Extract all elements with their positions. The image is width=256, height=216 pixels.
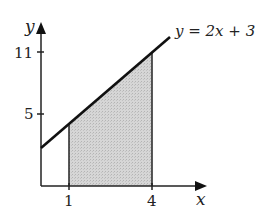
y-axis-arrow-icon: [36, 22, 46, 34]
x-axis-label: x: [196, 189, 206, 209]
tick-label-y5: 5: [24, 105, 34, 123]
tick-label-x1: 1: [64, 192, 74, 210]
shaded-area: [69, 52, 152, 186]
graph: y 11 5 1 4 x y = 2x + 3: [0, 0, 256, 216]
equation-label: y = 2x + 3: [174, 22, 255, 40]
tick-label-y11: 11: [14, 44, 33, 62]
tick-label-x4: 4: [147, 192, 157, 210]
y-axis-label: y: [24, 16, 35, 36]
